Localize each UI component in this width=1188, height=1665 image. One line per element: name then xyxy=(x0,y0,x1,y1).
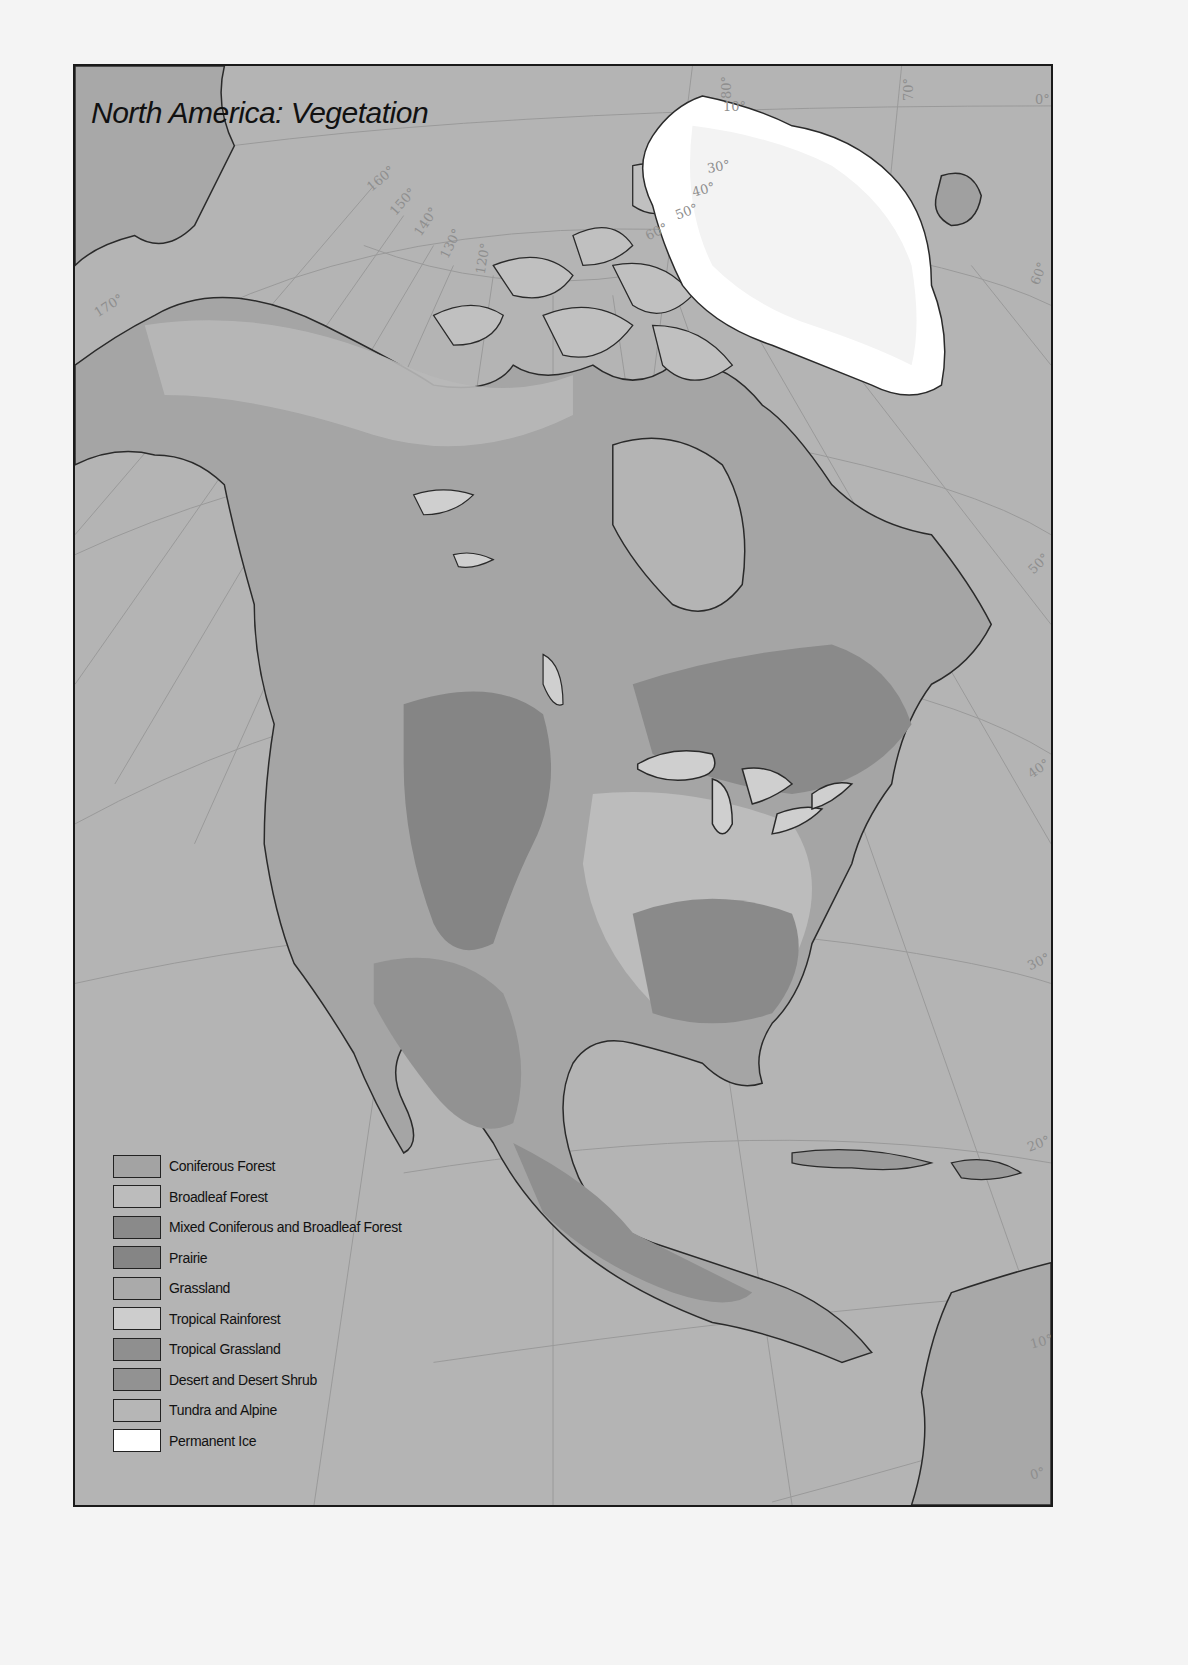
legend-swatch xyxy=(113,1185,161,1208)
legend-item-grassland: Grassland xyxy=(113,1273,401,1304)
legend-label: Desert and Desert Shrub xyxy=(169,1372,317,1388)
legend-swatch xyxy=(113,1368,161,1391)
legend-swatch xyxy=(113,1307,161,1330)
legend-swatch xyxy=(113,1277,161,1300)
legend-item-mixed-forest: Mixed Coniferous and Broadleaf Forest xyxy=(113,1212,401,1243)
legend-item-tundra: Tundra and Alpine xyxy=(113,1395,401,1426)
legend-label: Tropical Rainforest xyxy=(169,1311,280,1327)
legend-item-tropical-rainforest: Tropical Rainforest xyxy=(113,1304,401,1335)
legend-swatch xyxy=(113,1216,161,1239)
graticule-label: 80° xyxy=(719,76,734,99)
legend-label: Permanent Ice xyxy=(169,1433,256,1449)
legend-item-broadleaf-forest: Broadleaf Forest xyxy=(113,1182,401,1213)
vegetation-map: North America: Vegetation 170° 160° 150°… xyxy=(73,64,1053,1507)
graticule-label: 10° xyxy=(723,99,746,114)
legend-item-permanent-ice: Permanent Ice xyxy=(113,1426,401,1457)
legend-swatch xyxy=(113,1338,161,1361)
legend-label: Prairie xyxy=(169,1250,207,1266)
legend-label: Coniferous Forest xyxy=(169,1158,275,1174)
legend-label: Broadleaf Forest xyxy=(169,1189,268,1205)
legend-label: Tundra and Alpine xyxy=(169,1402,277,1418)
legend-label: Tropical Grassland xyxy=(169,1341,281,1357)
legend-item-desert: Desert and Desert Shrub xyxy=(113,1365,401,1396)
legend-item-prairie: Prairie xyxy=(113,1243,401,1274)
map-legend: Coniferous Forest Broadleaf Forest Mixed… xyxy=(113,1151,401,1456)
iceland xyxy=(935,173,981,225)
legend-swatch xyxy=(113,1399,161,1422)
legend-swatch xyxy=(113,1429,161,1452)
legend-swatch xyxy=(113,1155,161,1178)
legend-label: Grassland xyxy=(169,1280,230,1296)
legend-swatch xyxy=(113,1246,161,1269)
graticule-label: 0° xyxy=(1035,92,1050,107)
graticule-label: 70° xyxy=(901,78,916,101)
caribbean-islands xyxy=(792,1150,1021,1180)
legend-item-coniferous-forest: Coniferous Forest xyxy=(113,1151,401,1182)
legend-label: Mixed Coniferous and Broadleaf Forest xyxy=(169,1219,401,1235)
legend-item-tropical-grassland: Tropical Grassland xyxy=(113,1334,401,1365)
map-title: North America: Vegetation xyxy=(91,96,428,130)
